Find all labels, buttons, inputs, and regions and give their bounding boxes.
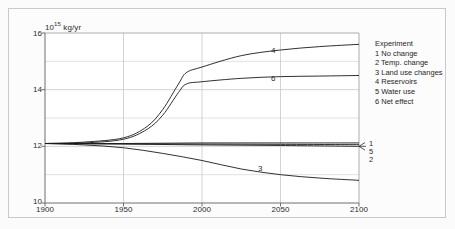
x-tick-marks	[45, 203, 359, 207]
curve-label-6: 6	[271, 74, 275, 83]
legend-item-2: 2 Temp. change	[375, 58, 443, 68]
curve-label-4: 4	[271, 46, 275, 55]
brace-labels: 1 5 2	[369, 140, 373, 164]
legend-item-6: 6 Net effect	[375, 97, 443, 107]
legend-item-4: 4 Reservoirs	[375, 77, 443, 87]
legend-item-1: 1 No change	[375, 49, 443, 59]
y-tick-marks	[42, 33, 46, 203]
curve-label-3: 3	[258, 164, 262, 173]
legend-title: Experiment	[375, 39, 443, 49]
legend-item-5: 5 Water use	[375, 87, 443, 97]
right-brace-marker	[359, 143, 366, 151]
legend: Experiment 1 No change 2 Temp. change 3 …	[375, 39, 443, 106]
figure-frame: 1015 kg/yr 16 14 12 10 1900 1950 2000 20…	[8, 8, 446, 218]
legend-item-3: 3 Land use changes	[375, 68, 443, 78]
chart-screenshot: 1015 kg/yr 16 14 12 10 1900 1950 2000 20…	[0, 0, 455, 229]
brace-label-2: 2	[369, 156, 373, 164]
